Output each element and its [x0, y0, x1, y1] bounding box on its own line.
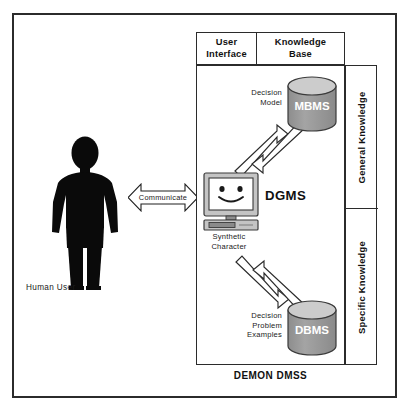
human-user-label: Human User — [26, 283, 146, 292]
database-cylinder-icon: MBMS — [286, 76, 338, 132]
header-user-interface: User Interface — [197, 33, 257, 64]
mbms-cylinder-label: MBMS — [294, 100, 329, 112]
knowledge-specific-label: Specific Knowledge — [357, 241, 368, 334]
header-knowledge-base: Knowledge Base — [257, 33, 344, 64]
dgms-label: DGMS — [265, 188, 306, 203]
mbms-caption-line2: Model — [216, 98, 282, 108]
knowledge-general-label: General Knowledge — [357, 91, 368, 183]
mbms-cylinder: MBMS — [286, 76, 338, 136]
header-knowledge-base-line2: Base — [275, 49, 326, 61]
synthetic-caption-line1: Synthetic — [196, 232, 262, 242]
panel-header-row: User Interface Knowledge Base — [196, 32, 345, 65]
mbms-caption-line1: Decision — [216, 88, 282, 98]
computer-monitor-icon — [203, 172, 259, 232]
header-user-interface-line2: Interface — [206, 49, 247, 61]
dbms-caption-line1: Decision — [208, 311, 282, 321]
dbms-caption-line2: Problem — [208, 321, 282, 331]
header-knowledge-base-line1: Knowledge — [275, 37, 326, 49]
communicate-label: Communicate — [131, 193, 195, 202]
dgms-computer — [203, 172, 259, 236]
knowledge-column: General Knowledge Specific Knowledge — [345, 65, 377, 365]
person-silhouette-icon — [40, 136, 130, 296]
synthetic-caption-line2: Character — [196, 242, 262, 252]
dbms-cylinder-label: DBMS — [295, 324, 329, 336]
dbms-caption: Decision Problem Examples — [208, 311, 282, 340]
knowledge-cell-general: General Knowledge — [346, 66, 378, 209]
header-user-interface-line1: User — [206, 37, 247, 49]
dbms-cylinder: DBMS — [286, 300, 338, 360]
database-cylinder-icon: DBMS — [286, 300, 338, 356]
mbms-caption: Decision Model — [216, 88, 282, 107]
dbms-caption-line3: Examples — [208, 330, 282, 340]
diagram-canvas: Human User Communicate User Interface Kn… — [0, 0, 411, 415]
demon-dmss-caption: DEMON DMSS — [196, 370, 345, 381]
knowledge-cell-specific: Specific Knowledge — [346, 209, 378, 366]
synthetic-character-caption: Synthetic Character — [196, 232, 262, 251]
human-user-figure — [40, 136, 130, 296]
